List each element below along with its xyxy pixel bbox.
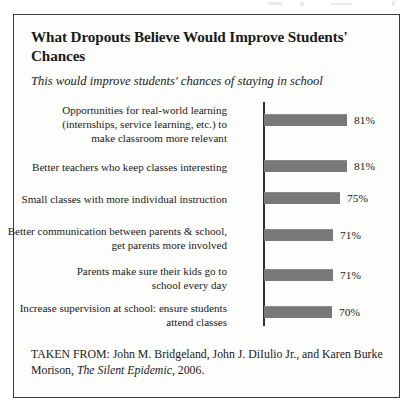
bar-label: Small classes with more individual instr… bbox=[0, 193, 227, 207]
bar-label: Better communication between parents & s… bbox=[0, 225, 227, 252]
bar-track: 75% bbox=[264, 192, 368, 204]
bar-fill bbox=[264, 306, 332, 318]
figure-box: What Dropouts Believe Would Improve Stud… bbox=[13, 14, 400, 398]
scan-artifact-strip bbox=[0, 0, 417, 13]
figure-title: What Dropouts Believe Would Improve Stud… bbox=[31, 28, 382, 65]
bar-value-label: 71% bbox=[340, 269, 361, 281]
source-publication-title: The Silent Epidemic bbox=[77, 363, 172, 377]
bar-track: 71% bbox=[264, 229, 361, 241]
source-suffix: , 2006. bbox=[172, 363, 204, 377]
bar-track: 70% bbox=[264, 306, 360, 318]
bar-value-label: 71% bbox=[340, 229, 361, 241]
bar-row: Better teachers who keep classes interes… bbox=[14, 152, 399, 182]
bar-label: Better teachers who keep classes interes… bbox=[0, 161, 227, 175]
bar-fill bbox=[264, 160, 347, 172]
bar-label: Increase supervision at school: ensure s… bbox=[0, 302, 227, 329]
bar-fill bbox=[264, 114, 347, 126]
bar-row: Small classes with more individual instr… bbox=[14, 188, 399, 218]
bar-value-label: 70% bbox=[339, 306, 360, 318]
bar-fill bbox=[264, 229, 333, 241]
bar-row: Parents make sure their kids go to schoo… bbox=[14, 261, 399, 297]
bar-fill bbox=[264, 269, 333, 281]
bar-fill bbox=[264, 192, 340, 204]
figure-subtitle: This would improve students' chances of … bbox=[31, 74, 382, 89]
bar-label: Parents make sure their kids go to schoo… bbox=[0, 265, 227, 292]
bar-chart: Opportunities for real-world learning (i… bbox=[14, 100, 399, 328]
bar-value-label: 81% bbox=[354, 160, 375, 172]
bar-track: 71% bbox=[264, 269, 361, 281]
bar-value-label: 81% bbox=[354, 114, 375, 126]
bar-label: Opportunities for real-world learning (i… bbox=[0, 104, 227, 145]
bar-row: Increase supervision at school: ensure s… bbox=[14, 300, 399, 336]
bar-row: Opportunities for real-world learning (i… bbox=[14, 100, 399, 146]
bar-track: 81% bbox=[264, 114, 375, 126]
bar-value-label: 75% bbox=[347, 192, 368, 204]
bar-row: Better communication between parents & s… bbox=[14, 220, 399, 256]
source-attribution: TAKEN FROM: John M. Bridgeland, John J. … bbox=[31, 347, 384, 378]
bar-track: 81% bbox=[264, 160, 375, 172]
